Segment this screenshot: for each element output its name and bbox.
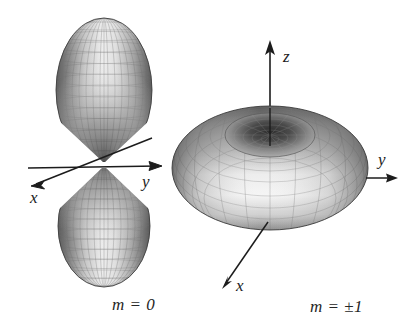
- orbital-figure: x y: [0, 0, 417, 330]
- right-y-axis: [366, 174, 398, 183]
- caption-m-equals-plus-minus-1: m = ±1: [310, 297, 363, 317]
- right-x-axis: [222, 222, 268, 289]
- caption-m-equals-0: m = 0: [112, 295, 155, 315]
- right-y-axis-label: y: [376, 150, 386, 169]
- right-x-axis-label: x: [235, 276, 244, 295]
- right-panel-graphic: z y x: [0, 0, 417, 330]
- right-z-axis-label: z: [282, 47, 290, 66]
